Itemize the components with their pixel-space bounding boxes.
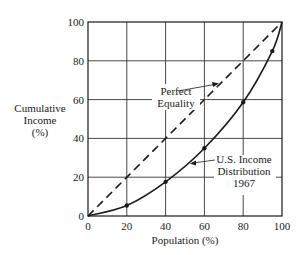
x-tick-label: 40 — [160, 220, 172, 232]
y-axis-ticks: 020406080100 — [68, 16, 85, 222]
lorenz-curve-chart: 020406080100 020406080100 Cumulative Inc… — [0, 0, 306, 255]
data-point-marker — [163, 180, 167, 184]
y-axis-label-line1: Cumulative — [14, 102, 65, 114]
lorenz-label-line3: 1967 — [233, 177, 256, 189]
data-point-marker — [125, 203, 129, 207]
equality-label-line1: Perfect — [160, 85, 191, 97]
x-tick-label: 60 — [199, 220, 211, 232]
x-tick-label: 0 — [85, 220, 91, 232]
lorenz-label-line1: U.S. Income — [216, 153, 271, 165]
y-axis-label-line2: Income — [24, 114, 57, 126]
lorenz-label-line2: Distribution — [217, 165, 271, 177]
y-tick-label: 100 — [68, 16, 85, 28]
data-point-marker — [241, 100, 245, 104]
y-tick-label: 20 — [73, 171, 85, 183]
y-tick-label: 60 — [73, 94, 85, 106]
y-axis-label-line3: (%) — [32, 126, 49, 139]
y-tick-label: 40 — [73, 132, 85, 144]
x-tick-label: 100 — [274, 220, 291, 232]
y-tick-label: 0 — [79, 210, 85, 222]
equality-label-line2: Equality — [157, 97, 195, 109]
data-point-marker — [270, 49, 274, 53]
data-point-marker — [202, 146, 206, 150]
x-tick-label: 20 — [121, 220, 133, 232]
x-axis-ticks: 020406080100 — [85, 220, 291, 232]
x-axis-label: Population (%) — [152, 234, 219, 247]
y-tick-label: 80 — [73, 55, 85, 67]
x-tick-label: 80 — [238, 220, 250, 232]
